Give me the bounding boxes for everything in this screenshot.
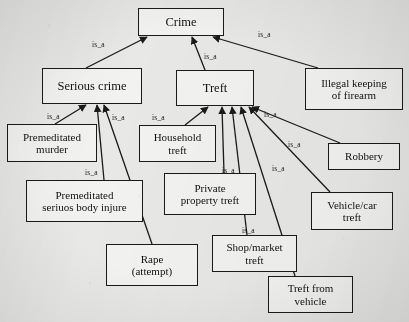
node-label-household-treft: Householdtreft [152,131,204,156]
edge-label-is-a: is_a [272,164,285,173]
node-label-treft: Treft [201,81,230,95]
node-label-crime: Crime [163,15,198,29]
node-label-treft-from-vehicle: Treft fromvehicle [286,282,336,307]
node-rape-attempt[interactable]: Rape(attempt) [106,244,198,286]
edge-label-is-a: is_a [152,113,165,122]
edge-label-is-a: is_a [264,110,277,119]
node-label-premeditated-murder: Premeditatedmurder [21,131,83,156]
node-robbery[interactable]: Robbery [328,143,400,170]
edge-label-is-a: is_a [204,52,217,61]
node-label-rape-attempt: Rape(attempt) [130,253,174,278]
node-household-treft[interactable]: Householdtreft [139,125,216,162]
node-label-premeditated-injure: Premeditatedseriuos body injure [40,189,128,214]
edge-label-is-a: is_a [85,168,98,177]
node-serious-crime[interactable]: Serious crime [42,68,142,104]
edge-label-is-a: is_a [258,30,271,39]
node-crime[interactable]: Crime [138,8,224,36]
edge-vehicle-car-treft-to-treft [249,107,330,192]
node-private-property[interactable]: Privateproperty treft [164,173,256,215]
node-premeditated-murder[interactable]: Premeditatedmurder [7,124,97,162]
edge-label-is-a: is_a [92,40,105,49]
edge-private-property-to-treft [222,107,224,173]
edge-illegal-firearm-to-crime [213,37,318,68]
node-vehicle-car-treft[interactable]: Vehicle/cartreft [311,192,393,230]
edge-label-is-a: is_a [112,113,125,122]
node-premeditated-injure[interactable]: Premeditatedseriuos body injure [26,180,143,222]
edge-premeditated-injure-to-serious-crime [97,105,104,180]
crime-taxonomy-diagram: CrimeSerious crimeTreftIllegal keepingof… [0,0,409,322]
edge-label-is-a: is_a [242,226,255,235]
node-label-robbery: Robbery [343,150,385,162]
node-label-serious-crime: Serious crime [55,79,128,93]
edge-label-is-a: is_a [47,112,60,121]
edge-label-is-a: is_a [288,140,301,149]
node-treft[interactable]: Treft [176,70,254,106]
node-treft-from-vehicle[interactable]: Treft fromvehicle [268,276,353,313]
edge-label-is-a: is_a [222,166,235,175]
node-label-shop-market-treft: Shop/markettreft [224,241,284,266]
node-shop-market-treft[interactable]: Shop/markettreft [212,235,297,272]
node-label-illegal-firearm: Illegal keepingof firearm [319,77,389,102]
edge-household-treft-to-treft [185,107,208,125]
node-label-vehicle-car-treft: Vehicle/cartreft [325,199,378,224]
node-illegal-firearm[interactable]: Illegal keepingof firearm [305,68,403,110]
node-label-private-property: Privateproperty treft [179,182,241,207]
